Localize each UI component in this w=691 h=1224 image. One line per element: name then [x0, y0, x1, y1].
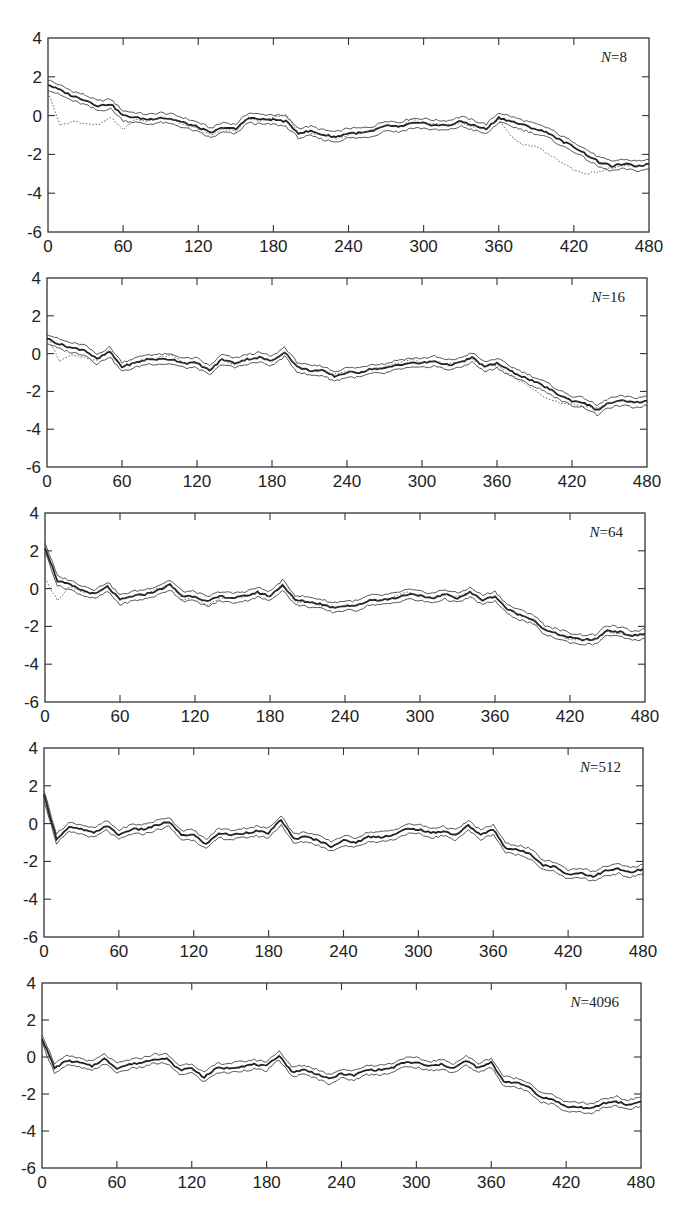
- figure: 060120180240300360420480420-2-4-6N=80601…: [0, 0, 691, 1224]
- panel-label: N=4096: [570, 994, 620, 1010]
- x-tick-label: 360: [477, 1173, 505, 1192]
- lower-bound-line: [45, 552, 645, 645]
- panel-n-8: 060120180240300360420480420-2-4-6N=8: [27, 29, 663, 256]
- plot-frame: [42, 983, 641, 1168]
- y-tick-label: -2: [24, 617, 39, 636]
- panel-n-4096: 060120180240300360420480420-2-4-6N=4096: [21, 974, 655, 1192]
- x-tick-label: 60: [107, 1173, 126, 1192]
- x-tick-label: 120: [181, 707, 209, 726]
- x-tick-label: 480: [627, 1173, 655, 1192]
- x-tick-label: 0: [43, 237, 52, 256]
- y-tick-label: -4: [26, 420, 41, 439]
- panel-label: N=64: [589, 524, 624, 540]
- y-tick-label: -2: [21, 1085, 36, 1104]
- x-tick-label: 180: [259, 237, 287, 256]
- x-tick-label: 480: [629, 942, 657, 961]
- x-tick-label: 300: [402, 1173, 430, 1192]
- lower-bound-line: [47, 344, 647, 416]
- estimate-line: [45, 548, 645, 641]
- x-tick-label: 180: [252, 1173, 280, 1192]
- x-tick-label: 240: [331, 707, 359, 726]
- x-tick-label: 120: [180, 942, 208, 961]
- x-tick-label: 120: [183, 472, 211, 491]
- upper-bound-line: [48, 80, 649, 161]
- y-tick-label: -6: [24, 693, 39, 712]
- y-tick-label: 4: [30, 504, 39, 523]
- x-tick-label: 480: [635, 237, 663, 256]
- y-tick-label: 0: [32, 345, 41, 364]
- y-tick-label: 0: [33, 107, 42, 126]
- y-tick-label: 0: [27, 1048, 36, 1067]
- x-tick-label: 0: [37, 1173, 46, 1192]
- y-tick-label: -4: [27, 184, 42, 203]
- panel-n-16: 060120180240300360420480420-2-4-6N=16: [26, 269, 661, 491]
- x-tick-label: 180: [258, 472, 286, 491]
- y-tick-label: -6: [23, 928, 38, 947]
- x-tick-label: 60: [111, 707, 130, 726]
- y-tick-label: -4: [24, 655, 39, 674]
- y-tick-label: 4: [32, 269, 41, 288]
- x-tick-label: 120: [184, 237, 212, 256]
- x-tick-label: 360: [479, 942, 507, 961]
- x-tick-label: 300: [406, 707, 434, 726]
- estimate-line: [42, 1039, 641, 1108]
- x-tick-label: 240: [329, 942, 357, 961]
- x-tick-label: 120: [178, 1173, 206, 1192]
- lower-bound-line: [42, 1042, 641, 1114]
- x-tick-label: 0: [42, 472, 51, 491]
- y-tick-label: -2: [26, 382, 41, 401]
- y-tick-label: 4: [29, 739, 38, 758]
- panel-label: N=8: [600, 49, 627, 65]
- panel-label: N=16: [591, 289, 626, 305]
- y-tick-label: 2: [32, 307, 41, 326]
- x-tick-label: 240: [327, 1173, 355, 1192]
- x-tick-label: 300: [404, 942, 432, 961]
- x-tick-label: 420: [558, 472, 586, 491]
- x-tick-label: 420: [560, 237, 588, 256]
- y-tick-label: -4: [23, 890, 38, 909]
- lower-bound-line: [48, 91, 649, 172]
- y-tick-label: -2: [23, 852, 38, 871]
- y-tick-label: 2: [27, 1011, 36, 1030]
- panel-label: N=512: [579, 759, 621, 775]
- x-tick-label: 360: [481, 707, 509, 726]
- y-tick-label: -6: [27, 223, 42, 242]
- x-tick-label: 420: [556, 707, 584, 726]
- upper-bound-line: [44, 791, 643, 872]
- y-tick-label: 4: [33, 29, 42, 48]
- y-tick-label: 2: [29, 777, 38, 796]
- x-tick-label: 480: [633, 472, 661, 491]
- upper-bound-line: [42, 1035, 641, 1104]
- x-tick-label: 60: [114, 237, 133, 256]
- x-tick-label: 360: [485, 237, 513, 256]
- y-tick-label: 0: [30, 580, 39, 599]
- plot-frame: [45, 513, 645, 702]
- y-tick-label: -6: [26, 458, 41, 477]
- y-tick-label: -2: [27, 145, 42, 164]
- panel-n-64: 060120180240300360420480420-2-4-6N=64: [24, 504, 659, 726]
- x-tick-label: 0: [40, 707, 49, 726]
- x-tick-label: 180: [256, 707, 284, 726]
- y-tick-label: 4: [27, 974, 36, 993]
- x-tick-label: 420: [554, 942, 582, 961]
- estimate-line: [47, 339, 647, 410]
- x-tick-label: 480: [631, 707, 659, 726]
- true-state-line: [45, 578, 645, 640]
- x-tick-label: 60: [109, 942, 128, 961]
- y-tick-label: 2: [33, 68, 42, 87]
- x-tick-label: 300: [409, 237, 437, 256]
- upper-bound-line: [45, 543, 645, 636]
- x-tick-label: 240: [334, 237, 362, 256]
- x-tick-label: 420: [552, 1173, 580, 1192]
- x-tick-label: 60: [113, 472, 132, 491]
- y-tick-label: 0: [29, 815, 38, 834]
- x-tick-label: 300: [408, 472, 436, 491]
- panel-n-512: 060120180240300360420480420-2-4-6N=512: [23, 739, 657, 961]
- y-tick-label: 2: [30, 542, 39, 561]
- estimate-line: [48, 85, 649, 167]
- x-tick-label: 0: [39, 942, 48, 961]
- x-tick-label: 240: [333, 472, 361, 491]
- plot-frame: [44, 748, 643, 937]
- x-tick-label: 360: [483, 472, 511, 491]
- y-tick-label: -4: [21, 1122, 36, 1141]
